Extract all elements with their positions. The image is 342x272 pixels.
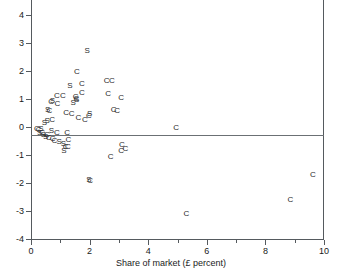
data-point-c: C xyxy=(62,143,70,151)
y-axis-tick xyxy=(26,127,31,128)
data-point-s: S xyxy=(83,47,91,55)
data-point-c: C xyxy=(33,125,41,133)
x-axis-tick xyxy=(207,240,208,245)
x-axis-tick-minor xyxy=(236,240,237,243)
y-axis-tick xyxy=(26,99,31,100)
data-point-c: C xyxy=(104,90,112,98)
x-axis-tick-minor xyxy=(119,240,120,243)
y-axis-tick xyxy=(26,15,31,16)
y-axis-tick xyxy=(26,183,31,184)
x-axis-tick xyxy=(90,240,91,245)
y-axis-line xyxy=(31,0,32,240)
plot-area: 0246810 SSSSSSSSSSSSSSSSSSSCCCCCCCCCCCCC… xyxy=(31,0,324,240)
data-point-c: C xyxy=(309,171,317,179)
data-point-c: C xyxy=(117,94,125,102)
data-point-c: C xyxy=(118,141,126,149)
x-axis-tick xyxy=(324,240,325,245)
data-point-c: C xyxy=(113,107,121,115)
y-axis-tick-label: 2 xyxy=(2,67,24,76)
data-point-c: C xyxy=(78,89,86,97)
y-axis-tick-label: 1 xyxy=(2,95,24,104)
right-frame-line xyxy=(323,0,324,240)
data-point-c: C xyxy=(182,210,190,218)
x-axis-tick-minor xyxy=(60,240,61,243)
data-point-c: C xyxy=(108,77,116,85)
data-point-c: C xyxy=(50,137,58,145)
data-point-c: C xyxy=(78,80,86,88)
y-axis-tick xyxy=(26,211,31,212)
x-axis-tick-label: 4 xyxy=(138,247,158,256)
y-axis-tick-label: 4 xyxy=(2,11,24,20)
x-axis-tick-label: 6 xyxy=(197,247,217,256)
data-point-c: C xyxy=(73,68,81,76)
x-axis-tick xyxy=(265,240,266,245)
data-point-s: S xyxy=(66,82,74,90)
scatter-chart-figure: 0246810 SSSSSSSSSSSSSSSSSSSCCCCCCCCCCCCC… xyxy=(0,0,342,272)
data-point-c: C xyxy=(53,100,61,108)
x-axis-tick xyxy=(31,240,32,245)
data-point-c: C xyxy=(172,124,180,132)
y-zero-reference-line xyxy=(31,135,324,136)
x-axis-tick-label: 0 xyxy=(21,247,41,256)
y-axis-tick-label: -1 xyxy=(2,151,24,160)
x-axis-tick-label: 10 xyxy=(314,247,334,256)
y-axis-tick-label: -2 xyxy=(2,179,24,188)
y-axis-tick xyxy=(26,71,31,72)
data-point-c: C xyxy=(85,112,93,120)
data-point-c: C xyxy=(48,116,56,124)
x-axis-tick-label: 2 xyxy=(80,247,100,256)
y-axis-tick xyxy=(26,43,31,44)
data-point-c: C xyxy=(286,196,294,204)
x-axis-tick-minor xyxy=(295,240,296,243)
data-point-c: C xyxy=(107,153,115,161)
x-axis-tick xyxy=(148,240,149,245)
x-axis-tick-minor xyxy=(178,240,179,243)
data-point-c: C xyxy=(59,92,67,100)
y-axis-tick-label: 0 xyxy=(2,123,24,132)
y-axis-tick-label: -3 xyxy=(2,207,24,216)
x-axis-title: Share of market (£ percent) xyxy=(0,258,342,268)
y-axis-tick xyxy=(26,155,31,156)
data-point-c: C xyxy=(86,177,94,185)
x-axis-tick-label: 8 xyxy=(255,247,275,256)
y-axis-tick-label: -4 xyxy=(2,235,24,244)
y-axis-tick-label: 3 xyxy=(2,39,24,48)
data-point-c: C xyxy=(45,107,53,115)
